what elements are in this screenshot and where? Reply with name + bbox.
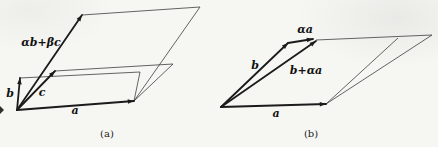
left-edge-speck <box>0 106 4 114</box>
panel-a: abcαb+βc(a) <box>6 7 200 139</box>
figure-vector-parallelograms: abcαb+βc(a)abb+αaαa(b) <box>0 0 438 147</box>
vector-b-label: b <box>251 59 259 72</box>
vector-a-label: a <box>272 107 279 120</box>
vector-a-arrowhead-icon <box>320 102 326 107</box>
vector-b-plus-alpha-a-label: b+αa <box>290 64 323 77</box>
vector-alpha-b-plus-beta-c-label: αb+βc <box>21 36 61 49</box>
vector-b-label: b <box>6 87 14 100</box>
vector-diagram-canvas: abcαb+βc(a)abb+αaαa(b) <box>0 0 438 147</box>
vector-c-label: c <box>39 86 46 99</box>
panel-b: abb+αaαa(b) <box>221 23 432 139</box>
panel-a-caption: (a) <box>100 128 114 139</box>
vector-b <box>221 43 288 107</box>
parallelogram-b-inner-right-edge <box>326 38 398 104</box>
vector-alpha-b-plus-beta-c <box>17 15 82 110</box>
parallelogram-b-top-edge <box>316 35 432 40</box>
parallelogram-a-combination-edge <box>82 7 200 101</box>
vector-alpha-a-label: αa <box>297 23 313 36</box>
parallelogram-b-outer-right-edge <box>326 35 432 104</box>
vector-a-label: a <box>71 104 78 117</box>
panel-b-caption: (b) <box>304 128 318 139</box>
parallelogram-a-c-edge <box>55 64 173 101</box>
